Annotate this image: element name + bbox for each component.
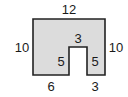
label-top-width: 12 (62, 2, 76, 17)
diagram-canvas: 12 10 10 3 5 5 6 3 (0, 0, 128, 97)
label-notch-top: 3 (74, 31, 81, 46)
label-notch-left: 5 (57, 54, 64, 69)
label-left-height: 10 (15, 40, 29, 55)
label-notch-right: 5 (91, 54, 98, 69)
label-bottom-right: 3 (91, 79, 98, 94)
label-right-height: 10 (109, 40, 123, 55)
label-bottom-left: 6 (47, 79, 54, 94)
